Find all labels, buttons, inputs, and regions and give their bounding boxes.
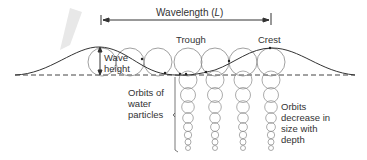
orbit-column-3 xyxy=(234,71,252,151)
trough-label: Trough xyxy=(176,34,206,45)
orbits-decrease-label: Orbitsdecrease insize withdepth xyxy=(281,101,330,145)
orbit-column-1 xyxy=(179,71,197,151)
wavelength-label: Wavelength (L) xyxy=(156,7,223,18)
orbit-column-2 xyxy=(206,71,224,151)
orbit-columns xyxy=(179,71,280,151)
wave-height-label: Waveheight xyxy=(104,52,130,74)
crest-label: Crest xyxy=(258,34,281,45)
wave-height-arrow xyxy=(98,47,102,75)
orbit-column-4 xyxy=(262,71,280,151)
wave-profile xyxy=(15,47,355,75)
depth-bracket xyxy=(173,77,178,152)
orbits-of-water-particles-label: Orbits ofwaterparticles xyxy=(128,87,164,120)
smudge xyxy=(60,8,82,50)
